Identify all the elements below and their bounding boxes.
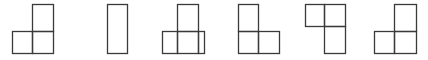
- square-cell: [178, 5, 199, 32]
- square-cell: [108, 5, 128, 54]
- figure-6: [375, 5, 417, 54]
- square-cell: [33, 5, 54, 32]
- square-cell: [306, 5, 325, 27]
- square-cell: [259, 32, 280, 54]
- square-cell: [395, 32, 417, 54]
- figure-5: [306, 5, 346, 54]
- figure-3: [163, 5, 205, 54]
- figures-canvas: [0, 0, 428, 60]
- square-cell: [395, 5, 417, 32]
- square-cell: [375, 32, 395, 54]
- square-cell: [199, 32, 205, 54]
- figure-4: [239, 5, 280, 54]
- square-cell: [178, 32, 199, 54]
- square-cell: [33, 32, 54, 54]
- square-cell: [13, 32, 33, 54]
- square-cell: [325, 5, 346, 27]
- square-cell: [239, 5, 259, 32]
- square-cell: [163, 32, 178, 54]
- square-cell: [325, 27, 346, 54]
- square-cell: [239, 32, 259, 54]
- figure-1: [13, 5, 54, 54]
- figure-2: [108, 5, 128, 54]
